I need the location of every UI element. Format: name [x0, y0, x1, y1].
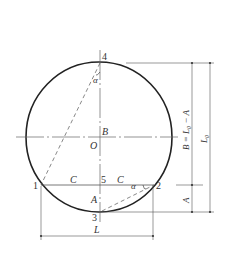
point-label-4: 4 — [102, 51, 107, 62]
dimension-label-B: B = L₀ − A — [181, 109, 191, 150]
dimension-label-L: L — [93, 224, 100, 235]
point-label-3: 3 — [92, 212, 97, 223]
label-B: B — [102, 126, 108, 137]
point-label-1: 1 — [33, 180, 38, 191]
angle-arc-right — [143, 185, 146, 189]
label-C-left: C — [70, 174, 77, 185]
dimension-tick-icon — [152, 235, 154, 237]
dimension-tick-icon — [209, 211, 211, 213]
dimension-tick-icon — [191, 184, 193, 186]
dashed-line-3-2 — [102, 185, 154, 211]
dimension-tick-icon — [191, 62, 193, 64]
dimension-tick-icon — [191, 211, 193, 213]
point-label-2: 2 — [156, 180, 161, 191]
label-alpha-top: α — [93, 75, 98, 85]
dimension-label-A: A — [181, 197, 191, 204]
label-C-right: C — [117, 174, 124, 185]
dimension-label-L0: L₀ — [199, 135, 209, 144]
dimension-tick-icon — [40, 235, 42, 237]
point-label-5: 5 — [101, 174, 106, 185]
label-alpha-right: α — [131, 181, 136, 191]
circle-geometry-diagram: 4 1 2 3 5 B O A C C α α L B = L₀ − A L₀ … — [0, 0, 230, 256]
label-center-O: O — [90, 140, 97, 151]
dimension-tick-icon — [209, 62, 211, 64]
label-A: A — [90, 194, 98, 205]
